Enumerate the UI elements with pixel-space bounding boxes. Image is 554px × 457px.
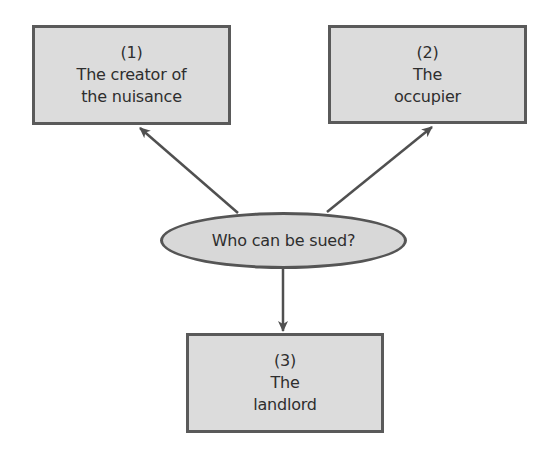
arrow-to-occupier <box>327 127 432 212</box>
node-landlord: (3) The landlord <box>186 333 384 433</box>
arrow-to-creator <box>140 128 238 213</box>
node-label-line2: the nuisance <box>81 86 182 108</box>
center-question-ellipse: Who can be sued? <box>160 212 407 269</box>
node-label-line1: The creator of <box>77 64 187 86</box>
node-label-line2: landlord <box>253 394 317 416</box>
node-label-line1: The <box>270 372 299 394</box>
node-number: (2) <box>416 42 438 64</box>
center-question-label: Who can be sued? <box>212 231 356 250</box>
node-label-line1: The <box>413 64 442 86</box>
node-number: (3) <box>274 350 296 372</box>
node-number: (1) <box>120 42 142 64</box>
node-label-line2: occupier <box>394 86 461 108</box>
node-occupier: (2) The occupier <box>328 25 527 124</box>
node-creator-of-nuisance: (1) The creator of the nuisance <box>32 25 231 125</box>
who-can-be-sued-diagram: (1) The creator of the nuisance (2) The … <box>0 0 554 457</box>
